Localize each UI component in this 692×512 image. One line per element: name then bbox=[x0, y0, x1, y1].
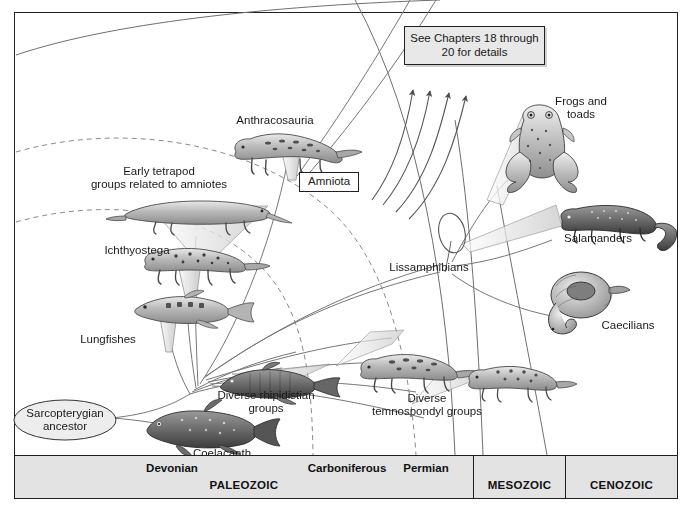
amniota-box: Amniota bbox=[299, 172, 359, 192]
label-salamanders: Salamanders bbox=[564, 232, 632, 245]
label-temnospondyls: Diverse temnospondyl groups bbox=[372, 392, 482, 418]
label-early-tetrapods-text: Early tetrapod groups related to amniote… bbox=[91, 165, 227, 190]
label-rhipidistians: Diverse rhipidistian groups bbox=[217, 389, 314, 415]
label-early-tetrapods: Early tetrapod groups related to amniote… bbox=[91, 165, 227, 191]
period-label-carboniferous: Carboniferous bbox=[308, 462, 387, 474]
chapter-reference-box: See Chapters 18 through 20 for details bbox=[404, 26, 545, 65]
label-lissamphibians: Lissamphibians bbox=[389, 261, 468, 274]
era-mesozoic: MESOZOIC bbox=[474, 456, 565, 498]
era-cenozoic: CENOZOIC bbox=[566, 456, 677, 498]
era-label-mesozoic: MESOZOIC bbox=[474, 479, 565, 491]
label-lungfishes: Lungfishes bbox=[80, 333, 136, 346]
figure-root: Anthracosauria Early tetrapod groups rel… bbox=[0, 0, 692, 512]
label-sarcopterygian-ancestor: Sarcopterygian ancestor bbox=[26, 407, 103, 433]
label-frogs-and-toads: Frogs and toads bbox=[555, 95, 607, 121]
label-caecilians: Caecilians bbox=[601, 319, 654, 332]
period-label-permian: Permian bbox=[403, 462, 448, 474]
label-ichthyostega: Ichthyostega bbox=[104, 244, 169, 257]
era-label-cenozoic: CENOZOIC bbox=[566, 479, 677, 491]
period-label-devonian: Devonian bbox=[146, 462, 198, 474]
label-anthracosauria: Anthracosauria bbox=[236, 114, 313, 127]
era-label-paleozoic: PALEOZOIC bbox=[15, 479, 473, 491]
geologic-timescale: PALEOZOIC MESOZOIC CENOZOIC Devonian Car… bbox=[14, 455, 678, 499]
